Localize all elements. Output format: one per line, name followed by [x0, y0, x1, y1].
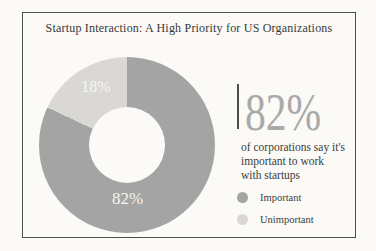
legend-label-important: Important	[260, 192, 301, 203]
stat-description-line-3: with startups	[241, 168, 345, 182]
legend-swatch-important	[237, 192, 248, 203]
stat-description-line-1: of corporations say it's	[241, 140, 345, 154]
page: Startup Interaction: A High Priority for…	[0, 0, 376, 251]
chart-card: Startup Interaction: A High Priority for…	[22, 12, 356, 238]
chart-title: Startup Interaction: A High Priority for…	[23, 21, 355, 35]
stat-value: 82%	[245, 87, 321, 139]
legend-item-important: Important	[237, 190, 314, 204]
legend-item-unimportant: Unimportant	[237, 212, 314, 226]
slice-label-unimportant: 18%	[76, 79, 116, 95]
legend-swatch-unimportant	[237, 214, 248, 225]
stat-description: of corporations say it's important to wo…	[241, 140, 345, 182]
donut-hole	[89, 107, 165, 183]
legend-label-unimportant: Unimportant	[260, 214, 314, 225]
stat-description-line-2: important to work	[241, 154, 345, 168]
slice-label-important: 82%	[107, 190, 148, 207]
donut-chart: 18% 82%	[39, 57, 215, 233]
legend: Important Unimportant	[237, 190, 314, 234]
stat-accent-line	[237, 84, 239, 129]
